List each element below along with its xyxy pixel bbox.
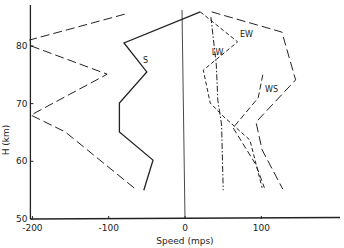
y-tick-label: 60 xyxy=(16,156,28,166)
y-tick-label: 70 xyxy=(16,99,28,109)
series-line-unlabeled-6 xyxy=(31,46,137,190)
wind-speed-profile-chart: -200-100010050607080 SEWLWWS Speed (mps)… xyxy=(0,0,344,248)
series-label-ew: EW xyxy=(240,30,253,39)
y-axis-label: H (km) xyxy=(1,125,11,156)
axes: -200-100010050607080 xyxy=(16,5,340,233)
x-axis-label: Speed (mps) xyxy=(156,236,213,246)
series-lines xyxy=(29,12,295,190)
zero-speed-line xyxy=(182,10,185,219)
series-label-s: S xyxy=(143,56,148,65)
series-line-unlabeled-4 xyxy=(212,12,296,189)
series-labels: SEWLWWS xyxy=(143,30,278,94)
series-line-s xyxy=(119,12,200,190)
series-line-lw xyxy=(211,17,223,190)
y-tick-label: 80 xyxy=(16,41,28,51)
x-tick-label: -100 xyxy=(98,223,119,233)
series-line-unlabeled-5 xyxy=(29,14,124,40)
series-line-ws xyxy=(233,75,264,188)
x-tick-label: 100 xyxy=(253,223,270,233)
x-tick-label: -200 xyxy=(22,223,43,233)
y-tick-label: 50 xyxy=(16,214,28,224)
series-label-lw: LW xyxy=(212,48,224,57)
x-tick-label: 0 xyxy=(182,223,188,233)
series-label-ws: WS xyxy=(265,85,278,94)
